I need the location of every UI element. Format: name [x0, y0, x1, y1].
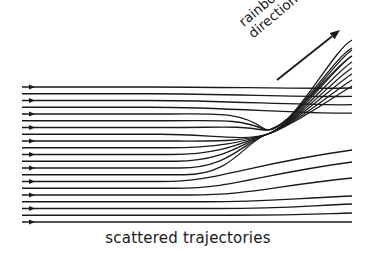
ray-arrow-icon [29, 165, 35, 170]
ray-arrow-icon [29, 206, 35, 211]
ray-trajectory [22, 204, 352, 209]
trajectory-diagram [0, 0, 376, 267]
ray-arrowheads [29, 84, 35, 224]
ray-arrow-icon [29, 98, 35, 103]
ray-trajectory [22, 87, 352, 88]
ray-arrow-icon [29, 179, 35, 184]
ray-arrow-icon [29, 152, 35, 157]
ray-trajectory [22, 213, 352, 215]
ray-trajectory [22, 94, 352, 97]
ray-arrow-icon [29, 111, 35, 116]
ray-arrow-icon [29, 125, 35, 130]
ray-arrow-icon [29, 84, 35, 89]
ray-arrow-icon [29, 192, 35, 197]
incoming-rays [22, 40, 352, 222]
diagram-caption: scattered trajectories [0, 229, 376, 247]
ray-trajectory [22, 196, 352, 202]
ray-trajectory [22, 56, 352, 141]
ray-arrow-icon [29, 219, 35, 224]
ray-arrow-icon [29, 138, 35, 143]
